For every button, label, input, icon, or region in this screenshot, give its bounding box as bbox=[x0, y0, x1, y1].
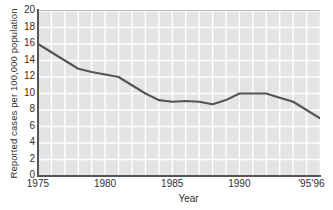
x-tick-label: 1980 bbox=[94, 178, 116, 189]
x-axis-tick-labels: 1975198019851990'95'96 bbox=[0, 0, 333, 210]
x-tick-label: 1990 bbox=[228, 178, 250, 189]
x-axis-title: Year bbox=[0, 193, 333, 204]
line-chart-figure: Reported cases per 100,000 population 02… bbox=[0, 0, 333, 210]
x-tick-label: 1985 bbox=[161, 178, 183, 189]
x-tick-label: '95 bbox=[298, 178, 311, 189]
x-axis-title-text: Year bbox=[178, 193, 198, 204]
x-tick-label: '96 bbox=[312, 178, 325, 189]
x-tick-label: 1975 bbox=[27, 178, 49, 189]
